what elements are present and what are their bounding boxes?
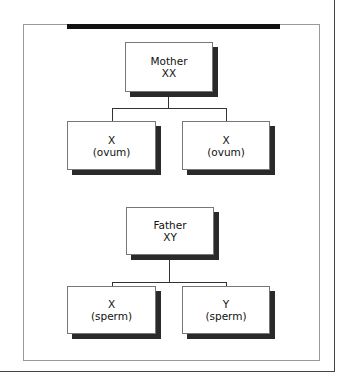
ovum-node-1: X (ovum): [67, 121, 156, 170]
sperm-1-sub: (sperm): [91, 310, 132, 322]
sperm-2-label: Y: [223, 298, 229, 310]
ovum-1-label: X: [108, 134, 115, 146]
mother-node: Mother XX: [125, 42, 213, 92]
sperm-2-sub: (sperm): [205, 310, 246, 322]
father-connector-stem: [169, 260, 170, 282]
ovum-2-label: X: [222, 134, 229, 146]
page-edge-bottom: [0, 371, 335, 372]
father-genotype: XY: [163, 231, 177, 243]
ovum-1-sub: (ovum): [93, 146, 131, 158]
father-label: Father: [153, 219, 186, 231]
mother-connector-bar: [112, 108, 227, 109]
figure-header-bar: [67, 24, 280, 29]
ovum-2-sub: (ovum): [207, 146, 245, 158]
sperm-node-2: Y (sperm): [182, 286, 270, 334]
mother-genotype: XX: [162, 67, 176, 79]
page-edge-right: [334, 0, 335, 372]
sperm-1-label: X: [108, 298, 115, 310]
mother-connector-stem: [168, 97, 169, 108]
father-node: Father XY: [126, 207, 214, 255]
mother-connector-left: [112, 108, 113, 121]
father-connector-bar: [112, 282, 227, 283]
ovum-node-2: X (ovum): [182, 121, 270, 170]
mother-label: Mother: [150, 55, 187, 67]
mother-connector-right: [226, 108, 227, 121]
sperm-node-1: X (sperm): [67, 286, 156, 334]
